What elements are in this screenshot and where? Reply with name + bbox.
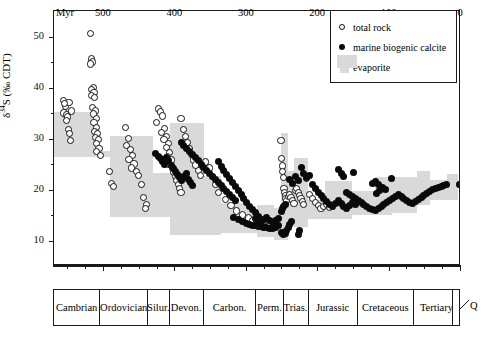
legend-label-evaporite: evaporite <box>353 62 390 73</box>
y-axis-tick-label: 10 <box>22 235 44 245</box>
data-point-marine-biogenic-calcite <box>275 215 282 222</box>
period-label: Cambrian <box>56 302 97 313</box>
x-axis-minor-tick <box>406 265 407 269</box>
y-axis-label-delta: δ <box>0 113 12 118</box>
y-axis-tick <box>49 190 54 191</box>
x-axis-tick-label: 0 <box>457 7 462 18</box>
period-label: Devon. <box>171 302 202 313</box>
data-point-total-rock <box>87 30 94 37</box>
evaporite-band <box>153 173 170 217</box>
period-label-quaternary: Q <box>470 300 478 311</box>
y-axis-minor-tick <box>51 215 54 216</box>
y-axis-tick-label: 50 <box>22 31 44 41</box>
legend-label-total-rock: total rock <box>353 22 391 33</box>
x-axis-unit-label: Myr <box>56 7 74 18</box>
x-axis-minor-tick <box>371 265 372 269</box>
data-point-total-rock <box>68 107 75 114</box>
legend-label-marine-biogenic-calcite: marine biogenic calcite <box>353 42 446 53</box>
period-label: Ordovician <box>100 302 147 313</box>
data-point-total-rock <box>277 137 284 144</box>
y-axis-minor-tick <box>51 164 54 165</box>
data-point-total-rock <box>177 189 184 196</box>
period-label: Carbon. <box>213 302 247 313</box>
data-point-total-rock <box>177 115 184 122</box>
data-point-marine-biogenic-calcite <box>288 218 295 225</box>
evaporite-swatch <box>337 55 357 68</box>
data-point-total-rock <box>125 135 132 142</box>
period-label: Trias. <box>284 302 308 313</box>
x-axis-minor-tick <box>228 265 229 269</box>
x-axis-major-tick <box>317 265 318 271</box>
y-axis-label-superscript: 34 <box>0 105 7 113</box>
y-axis-minor-tick <box>51 62 54 63</box>
legend-entry-total-rock: total rock <box>331 19 456 35</box>
data-point-marine-biogenic-calcite <box>189 182 196 189</box>
data-point-total-rock <box>153 119 160 126</box>
x-axis-major-tick <box>174 265 175 271</box>
period-label: Perm. <box>257 302 282 313</box>
y-axis-tick <box>49 139 54 140</box>
y-axis-label-text: S (‰ CDT) <box>0 53 12 105</box>
data-point-marine-biogenic-calcite <box>456 181 459 188</box>
x-axis-tick-label: 200 <box>309 7 325 18</box>
data-point-total-rock <box>91 94 98 101</box>
y-axis-tick <box>49 37 54 38</box>
x-axis-minor-tick <box>67 265 68 269</box>
legend-entry-marine-biogenic-calcite: marine biogenic calcite <box>331 39 456 55</box>
period-cell-silur: Silur. <box>148 290 169 325</box>
open-circle-icon <box>331 24 353 30</box>
x-axis-minor-tick <box>121 265 122 269</box>
x-axis-minor-tick <box>442 265 443 269</box>
period-cell-cambrian: Cambrian <box>54 290 100 325</box>
period-label: Tertiary <box>420 302 453 313</box>
evaporite-band <box>54 112 95 157</box>
period-cell-perm: Perm. <box>256 290 283 325</box>
data-point-marine-biogenic-calcite <box>296 227 303 234</box>
data-point-total-rock <box>110 183 117 190</box>
y-axis-tick-label: 40 <box>22 82 44 92</box>
period-cell-cretaceous: Cretaceous <box>358 290 414 325</box>
x-axis-minor-tick <box>192 265 193 269</box>
x-axis-major-tick <box>246 265 247 271</box>
data-point-total-rock <box>87 60 94 67</box>
y-axis-minor-tick <box>51 113 54 114</box>
x-axis-major-tick <box>103 265 104 271</box>
x-axis-tick-label: 500 <box>95 7 111 18</box>
data-point-marine-biogenic-calcite <box>340 173 347 180</box>
data-point-marine-biogenic-calcite <box>388 175 395 182</box>
data-point-total-rock <box>63 117 70 124</box>
period-cell-carbon: Carbon. <box>204 290 257 325</box>
y-axis-tick-label: 30 <box>22 133 44 143</box>
data-point-total-rock <box>138 181 145 188</box>
x-axis-minor-tick <box>299 265 300 269</box>
x-axis-minor-tick <box>264 265 265 269</box>
x-axis-minor-tick <box>157 265 158 269</box>
data-point-total-rock <box>97 152 104 159</box>
period-cell-jurassic: Jurassic <box>309 290 358 325</box>
x-axis-major-tick <box>389 265 390 271</box>
data-point-total-rock <box>180 126 187 133</box>
geologic-period-bar: CambrianOrdovicianSilur.Devon.Carbon.Per… <box>53 289 460 326</box>
x-axis-tick-label: 400 <box>167 7 183 18</box>
y-axis-tick-label: 20 <box>22 184 44 194</box>
x-axis-tick-label: 300 <box>238 7 254 18</box>
data-point-marine-biogenic-calcite <box>375 181 382 188</box>
filled-circle-icon <box>331 44 353 51</box>
data-point-marine-biogenic-calcite <box>350 169 357 176</box>
x-axis-minor-tick <box>85 265 86 269</box>
x-axis-minor-tick <box>335 265 336 269</box>
data-point-marine-biogenic-calcite <box>306 172 313 179</box>
x-axis-minor-tick <box>353 265 354 269</box>
period-cell-ordovician: Ordovician <box>100 290 148 325</box>
y-axis-tick <box>49 88 54 89</box>
data-point-total-rock <box>122 124 129 131</box>
period-label: Silur. <box>148 302 169 313</box>
x-axis-line <box>53 265 460 267</box>
data-point-marine-biogenic-calcite <box>295 177 302 184</box>
period-cell-devon: Devon. <box>170 290 204 325</box>
data-point-total-rock <box>159 112 166 119</box>
figure-root: δ34S (‰ CDT) 1020304050 5004003002001000… <box>0 0 481 337</box>
x-axis-major-tick <box>460 265 461 271</box>
x-axis-minor-tick <box>424 265 425 269</box>
x-axis-minor-tick <box>210 265 211 269</box>
